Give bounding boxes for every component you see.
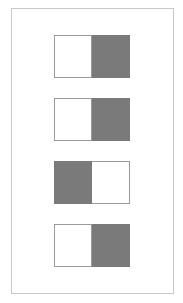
pair-1-left-square	[54, 35, 92, 78]
pair-1-right-square	[92, 35, 130, 78]
pair-2-left-square	[54, 98, 92, 141]
square-pair-3	[54, 161, 131, 204]
pair-2-right-square	[92, 98, 130, 141]
square-pair-2	[54, 98, 131, 141]
square-pair-1	[54, 35, 131, 78]
pair-3-left-square	[54, 161, 92, 204]
pair-4-left-square	[54, 224, 92, 267]
square-pair-4	[54, 224, 131, 267]
pair-3-right-square	[92, 161, 130, 204]
pair-4-right-square	[92, 224, 130, 267]
